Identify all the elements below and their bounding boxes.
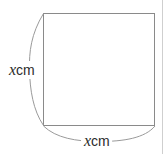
square-shape (44, 14, 155, 126)
bottom-label-unit: cm (91, 133, 109, 149)
left-label-unit: cm (16, 62, 34, 78)
bottom-side-dimension-label: xcm (81, 132, 112, 150)
left-side-dimension-label: xcm (7, 61, 36, 79)
geometry-figure-canvas: xcm xcm (0, 0, 165, 154)
